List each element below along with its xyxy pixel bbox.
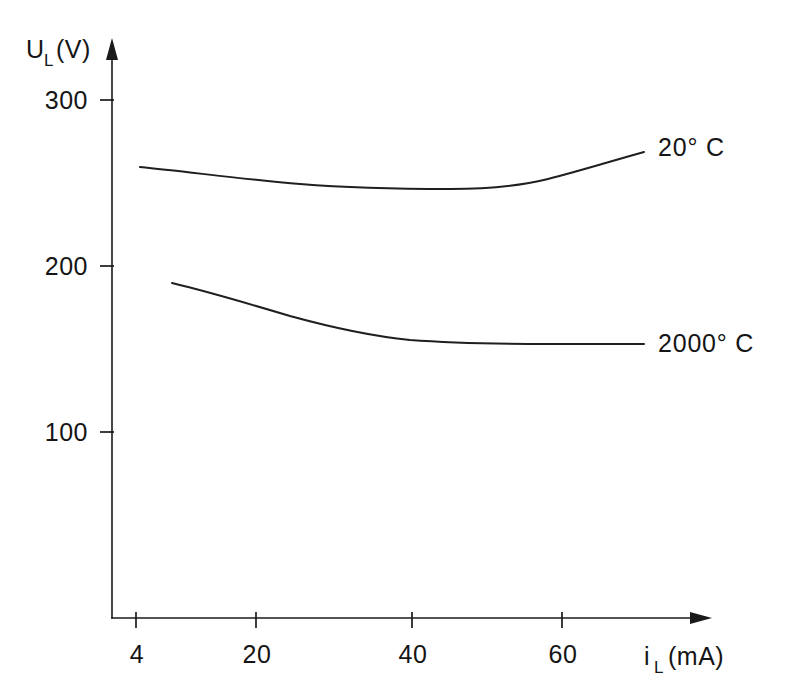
- x-tick-label-40: 40: [399, 640, 428, 668]
- y-axis: [106, 38, 118, 618]
- y-axis-title-subscript: L: [44, 51, 54, 70]
- series-label-2000c: 2000° C: [658, 329, 754, 357]
- y-axis-title-unit: (V): [56, 35, 91, 63]
- x-tick-label-4: 4: [130, 640, 144, 668]
- x-tick-group: [136, 612, 562, 628]
- y-tick-label-100: 100: [45, 418, 88, 446]
- y-axis-title: U L (V): [26, 35, 91, 70]
- x-tick-label-20: 20: [243, 640, 272, 668]
- y-tick-label-300: 300: [45, 86, 88, 114]
- series-label-20c: 20° C: [658, 133, 725, 161]
- x-axis-arrow-icon: [690, 612, 712, 624]
- y-tick-label-200: 200: [45, 252, 88, 280]
- chart-canvas: 300 200 100 4 20 40 60 U L (V) i L (mA): [0, 0, 793, 694]
- x-tick-label-60: 60: [549, 640, 578, 668]
- y-axis-title-main: U: [26, 35, 45, 63]
- x-axis-title-subscript: L: [654, 658, 664, 677]
- x-axis-title: i L (mA): [644, 642, 724, 677]
- y-axis-arrow-icon: [106, 38, 118, 60]
- x-axis-title-unit: (mA): [668, 642, 724, 670]
- curve-series-20c: [140, 152, 644, 189]
- curve-series-2000c: [172, 283, 644, 344]
- chart-page: 300 200 100 4 20 40 60 U L (V) i L (mA): [0, 0, 793, 694]
- x-axis-title-main: i: [644, 642, 650, 670]
